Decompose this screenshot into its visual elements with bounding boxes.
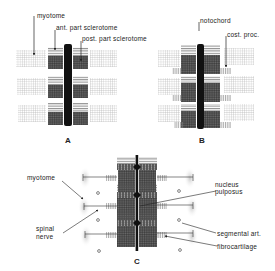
panel-b bbox=[158, 22, 254, 129]
label-a-post-sclerotome: post. part sclerotome bbox=[82, 35, 147, 42]
label-b-cost-proc: cost. proc. bbox=[227, 31, 259, 38]
notochord-bar bbox=[64, 44, 72, 126]
panel-c bbox=[62, 155, 217, 252]
label-a-ant-sclerotome: ant. part sclerotome bbox=[56, 24, 117, 31]
label-c-spinal: spinal bbox=[36, 225, 54, 232]
label-a-myotome: myotome bbox=[37, 12, 65, 19]
label-c-fibrocartilage: fibrocartilage bbox=[217, 243, 257, 250]
label-c-nucleus: nucleus bbox=[215, 181, 239, 188]
label-c-pulposus: pulposus bbox=[215, 188, 243, 195]
label-c-myotome: myotome bbox=[27, 174, 55, 181]
panel-a bbox=[16, 16, 117, 126]
notochord-bar-b bbox=[197, 44, 204, 129]
panel-label-b: B bbox=[199, 136, 205, 145]
label-c-nerve: nerve bbox=[36, 233, 53, 240]
label-b-notochord: notochord bbox=[200, 17, 231, 24]
panel-label-a: A bbox=[65, 136, 71, 145]
label-c-segmental-art: segmental art. bbox=[217, 230, 261, 237]
panel-label-c: C bbox=[134, 257, 140, 266]
